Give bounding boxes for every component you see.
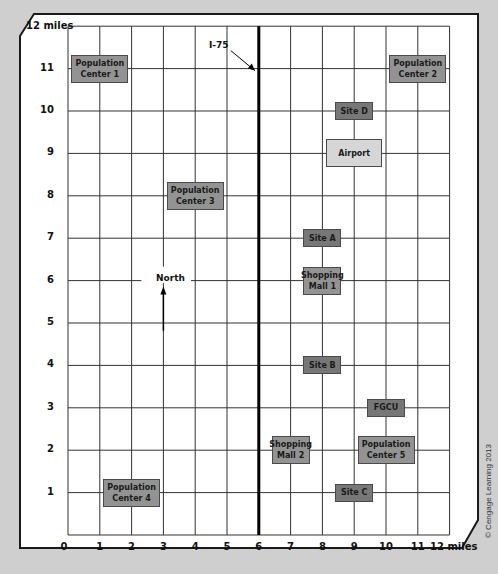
y-tick-label: 4 [40,358,54,369]
site-c-marker[interactable]: Site C [335,484,373,502]
shopping-mall-2-marker[interactable]: ShoppingMall 2 [272,436,310,464]
x-tick-label: 11 [408,541,428,552]
fgcu-marker[interactable]: FGCU [367,399,405,417]
y-tick-label: 7 [40,231,54,242]
population-center-3-marker[interactable]: PopulationCenter 3 [167,182,224,210]
y-tick-label: 9 [40,146,54,157]
site-d-label: Site D [341,106,368,117]
site-a-marker[interactable]: Site A [303,229,341,247]
x-tick-label: 0 [54,541,74,552]
airport-label: Airport [338,148,370,159]
copyright-notice: © Cengage Learning 2013 [484,444,493,538]
y-tick-label: 2 [40,443,54,454]
population-center-5-label: PopulationCenter 5 [362,439,411,461]
y-tick-label: 3 [40,401,54,412]
x-tick-label: 8 [312,541,332,552]
site-b-label: Site B [309,360,336,371]
population-center-1-label: PopulationCenter 1 [75,58,124,80]
north-arrow-icon [160,287,166,295]
x-tick-label: 2 [122,541,142,552]
shopping-mall-2-label: ShoppingMall 2 [269,439,312,461]
population-center-4-marker[interactable]: PopulationCenter 4 [103,479,160,507]
map-grid [0,0,498,574]
highway-label: I-75 [209,40,229,50]
y-tick-label: 11 [40,62,54,73]
y-tick-label: 1 [40,486,54,497]
airport-marker[interactable]: Airport [326,139,382,167]
x-tick-label: 3 [153,541,173,552]
population-center-2-marker[interactable]: PopulationCenter 2 [389,55,446,83]
y-axis-end-label: 12 miles [26,20,73,31]
population-center-2-label: PopulationCenter 2 [393,58,442,80]
y-tick-label: 6 [40,274,54,285]
shopping-mall-1-marker[interactable]: ShoppingMall 1 [303,267,341,295]
y-tick-label: 8 [40,189,54,200]
x-tick-label: 1 [90,541,110,552]
shopping-mall-1-label: ShoppingMall 1 [301,270,344,292]
site-b-marker[interactable]: Site B [303,356,341,374]
population-center-3-label: PopulationCenter 3 [171,185,220,207]
y-tick-label: 5 [40,316,54,327]
y-tick-label: 10 [40,104,54,115]
site-a-label: Site A [309,233,336,244]
x-tick-label: 5 [217,541,237,552]
population-center-4-label: PopulationCenter 4 [107,482,156,504]
highway-pointer-arrowhead [248,64,255,71]
x-tick-label: 10 [376,541,396,552]
population-center-5-marker[interactable]: PopulationCenter 5 [358,436,415,464]
x-tick-label: 6 [249,541,269,552]
x-tick-label: 4 [185,541,205,552]
x-tick-label: 9 [344,541,364,552]
x-axis-end-label: 12 miles [430,541,477,552]
site-c-label: Site C [341,487,367,498]
x-tick-label: 7 [281,541,301,552]
north-label: North [150,273,191,283]
site-d-marker[interactable]: Site D [335,102,373,120]
population-center-1-marker[interactable]: PopulationCenter 1 [71,55,128,83]
fgcu-label: FGCU [374,402,398,413]
